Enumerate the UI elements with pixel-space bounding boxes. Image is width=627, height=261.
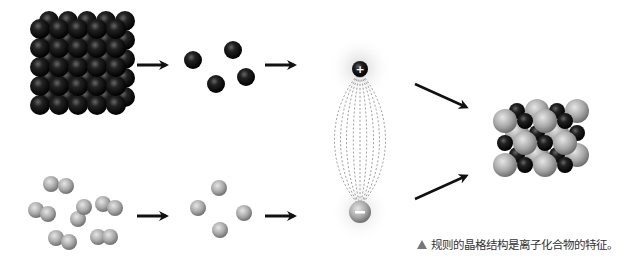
light-diatomic-molecules [28, 176, 123, 250]
positive-sign: + [355, 63, 364, 76]
caption-text: 规则的晶格结构是离子化合物的特征。 [431, 236, 618, 252]
light-separated-atoms [190, 180, 252, 238]
ionic-compound-diagram: + [0, 0, 627, 261]
arrow-icon [415, 176, 466, 199]
figure-caption: 规则的晶格结构是离子化合物的特征。 [417, 236, 618, 252]
negative-sign [355, 211, 365, 214]
ionic-crystal-lattice [493, 99, 589, 177]
triangle-icon [417, 240, 427, 249]
dark-lattice-block [30, 11, 135, 115]
dark-separated-atoms [184, 41, 255, 93]
arrow-icon [415, 84, 466, 107]
ion-pair: + [328, 36, 392, 242]
